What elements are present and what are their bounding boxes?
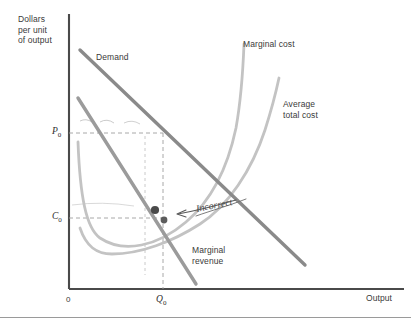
average-total-cost-label: Average total cost	[283, 99, 345, 120]
quantity-axis-tick-label: Q0	[156, 294, 166, 307]
intersection-dot-mr-mc	[151, 206, 159, 214]
price-axis-tick-label: P0	[52, 126, 61, 139]
economics-chart-figure: Dollars per unit of output Demand Margin…	[0, 0, 411, 326]
cost-axis-tick-label: C0	[52, 211, 62, 224]
pencil-squiggle-c	[124, 121, 140, 124]
x-axis-title: Output	[366, 293, 392, 304]
bottom-divider-rule	[0, 317, 411, 318]
y-axis-title: Dollars per unit of output	[18, 14, 74, 46]
intersection-dot-atc	[161, 217, 168, 224]
marginal-cost-label: Marginal cost	[243, 39, 295, 50]
chart-plot-area	[0, 0, 411, 326]
pencil-squiggle-d	[72, 203, 134, 206]
origin-tick-label: 0	[66, 295, 70, 304]
demand-label: Demand	[96, 52, 129, 63]
pencil-squiggle-b	[100, 120, 114, 123]
marginal-revenue-label: Marginal revenue	[192, 245, 252, 266]
marginal-cost-curve	[78, 44, 244, 246]
marginal-revenue-curve	[78, 98, 196, 284]
